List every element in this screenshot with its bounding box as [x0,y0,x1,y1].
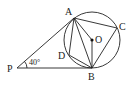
geometry-diagram: A C O D P B 40° [0,0,134,86]
label-b: B [88,71,95,82]
center-dot-o [90,38,93,41]
tangent-pa [17,18,74,68]
label-c: C [119,21,126,32]
chord-db [69,55,92,68]
angle-arc-p [25,61,28,68]
angle-label: 40° [29,58,40,67]
label-d: D [58,50,65,61]
label-p: P [7,63,13,74]
label-a: A [65,6,73,17]
label-o: O [95,34,102,45]
chord-ab [74,18,92,68]
